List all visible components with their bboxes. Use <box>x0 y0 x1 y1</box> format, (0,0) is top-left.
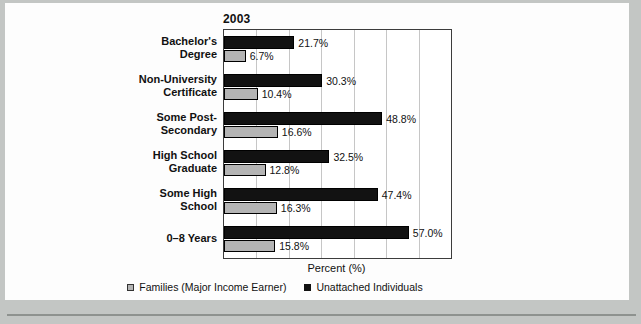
bar-line: 10.4% <box>224 88 451 100</box>
bar-line: 12.8% <box>224 164 451 176</box>
bar-unattached-individuals <box>224 150 329 163</box>
value-label: 10.4% <box>262 88 292 100</box>
value-label: 57.0% <box>413 227 443 239</box>
bar-group: 47.4%16.3% <box>224 182 451 220</box>
bar-line: 32.5% <box>224 150 451 163</box>
bar-line: 30.3% <box>224 74 451 87</box>
bar-group: 57.0%15.8% <box>224 220 451 258</box>
unattached-swatch-icon <box>304 284 311 291</box>
bar-line: 16.6% <box>224 126 451 138</box>
value-label: 48.8% <box>386 113 416 125</box>
bar-families <box>224 50 246 62</box>
bar-line: 21.7% <box>224 36 451 49</box>
category-label: 0–8 Years <box>5 219 217 257</box>
category-label: Non-University Certificate <box>5 67 217 105</box>
bar-unattached-individuals <box>224 36 294 49</box>
category-label: High School Graduate <box>5 143 217 181</box>
bar-families <box>224 164 266 176</box>
legend: Families (Major Income Earner) Unattache… <box>5 281 545 293</box>
legend-label-unattached: Unattached Individuals <box>316 281 422 293</box>
page-rule-divider <box>7 314 636 316</box>
bar-families <box>224 126 278 138</box>
value-label: 16.3% <box>281 202 311 214</box>
value-label: 16.6% <box>282 126 312 138</box>
bar-line: 16.3% <box>224 202 451 214</box>
bar-line: 47.4% <box>224 188 451 201</box>
bar-line: 15.8% <box>224 240 451 252</box>
bar-line: 6.7% <box>224 50 451 62</box>
bar-families <box>224 88 258 100</box>
category-label: Some Post- Secondary <box>5 105 217 143</box>
bar-unattached-individuals <box>224 112 382 125</box>
bar-unattached-individuals <box>224 188 378 201</box>
bar-group: 21.7%6.7% <box>224 30 451 68</box>
plot-area: 21.7%6.7%30.3%10.4%48.8%16.6%32.5%12.8%4… <box>223 29 452 259</box>
legend-item-families: Families (Major Income Earner) <box>127 281 286 293</box>
plot-rows: 21.7%6.7%30.3%10.4%48.8%16.6%32.5%12.8%4… <box>224 30 451 258</box>
value-label: 21.7% <box>298 37 328 49</box>
x-axis-label: Percent (%) <box>223 262 450 274</box>
bar-line: 57.0% <box>224 226 451 239</box>
value-label: 32.5% <box>333 151 363 163</box>
families-swatch-icon <box>127 284 134 291</box>
category-label: Some High School <box>5 181 217 219</box>
legend-item-unattached: Unattached Individuals <box>304 281 422 293</box>
category-label: Bachelor's Degree <box>5 29 217 67</box>
value-label: 30.3% <box>326 75 356 87</box>
bar-families <box>224 240 275 252</box>
value-label: 15.8% <box>279 240 309 252</box>
bar-group: 32.5%12.8% <box>224 144 451 182</box>
bar-unattached-individuals <box>224 226 409 239</box>
bar-group: 48.8%16.6% <box>224 106 451 144</box>
bar-line: 48.8% <box>224 112 451 125</box>
value-label: 47.4% <box>382 189 412 201</box>
legend-label-families: Families (Major Income Earner) <box>139 281 286 293</box>
value-label: 12.8% <box>270 164 300 176</box>
value-label: 6.7% <box>250 50 274 62</box>
bar-group: 30.3%10.4% <box>224 68 451 106</box>
category-labels: Bachelor's DegreeNon-University Certific… <box>5 29 217 257</box>
bar-families <box>224 202 277 214</box>
figure-panel: 2003 Bachelor's DegreeNon-University Cer… <box>5 3 629 300</box>
chart-title: 2003 <box>223 12 251 26</box>
bar-unattached-individuals <box>224 74 322 87</box>
